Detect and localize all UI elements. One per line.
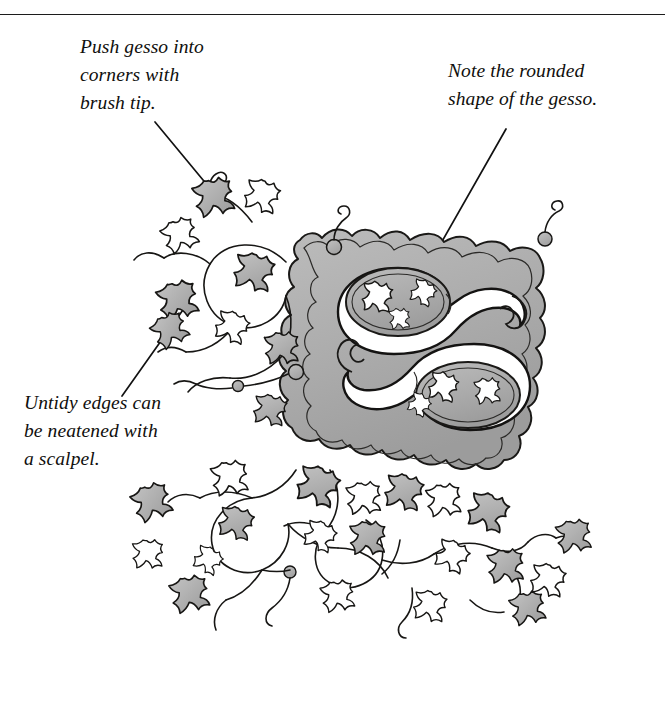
leader-line-gesso [155, 122, 208, 186]
illustration-page: Push gesso into corners with brush tip. … [0, 0, 665, 707]
caption-note-rounded: Note the rounded shape of the gesso. [448, 57, 597, 113]
caption-untidy-edges: Untidy edges can be neatened with a scal… [24, 389, 161, 473]
caption-push-gesso: Push gesso into corners with brush tip. [80, 33, 204, 117]
